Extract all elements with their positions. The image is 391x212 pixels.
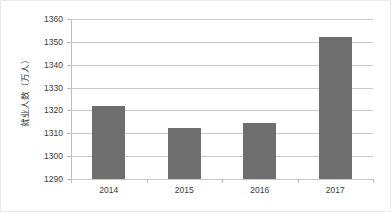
y-axis-title: 就业人数（万人） bbox=[17, 1, 31, 181]
bar bbox=[319, 37, 352, 179]
bar bbox=[243, 123, 276, 179]
y-axis-tick-label: 1360 bbox=[44, 14, 63, 24]
x-axis-tick-label: 2014 bbox=[99, 185, 118, 195]
x-axis-tick-labels: 2014201520162017 bbox=[71, 185, 373, 199]
y-axis-tick-label: 1310 bbox=[44, 128, 63, 138]
y-axis-tick-label: 1330 bbox=[44, 83, 63, 93]
bar-chart: 就业人数（万人） 1290130013101320133013401350136… bbox=[0, 0, 391, 212]
x-axis-tick-mark bbox=[373, 179, 374, 183]
plot-area bbox=[71, 19, 373, 179]
y-axis-tick-label: 1290 bbox=[44, 174, 63, 184]
y-axis-tick-label: 1300 bbox=[44, 151, 63, 161]
y-axis-tick-label: 1320 bbox=[44, 105, 63, 115]
x-axis-tick-label: 2016 bbox=[250, 185, 269, 195]
y-axis-tick-labels: 12901300131013201330134013501360 bbox=[31, 19, 63, 179]
x-axis-tick-label: 2017 bbox=[326, 185, 345, 195]
y-axis-tick-label: 1350 bbox=[44, 37, 63, 47]
y-axis-tick-label: 1340 bbox=[44, 60, 63, 70]
x-axis-tick-mark bbox=[222, 179, 223, 183]
bar bbox=[168, 128, 201, 179]
x-axis-tick-mark bbox=[71, 179, 72, 183]
bars-layer bbox=[71, 19, 373, 179]
y-axis-title-label: 就业人数（万人） bbox=[18, 55, 30, 127]
x-axis-tick-label: 2015 bbox=[175, 185, 194, 195]
x-axis-tick-mark bbox=[147, 179, 148, 183]
x-axis-tick-mark bbox=[298, 179, 299, 183]
bar bbox=[92, 106, 125, 179]
